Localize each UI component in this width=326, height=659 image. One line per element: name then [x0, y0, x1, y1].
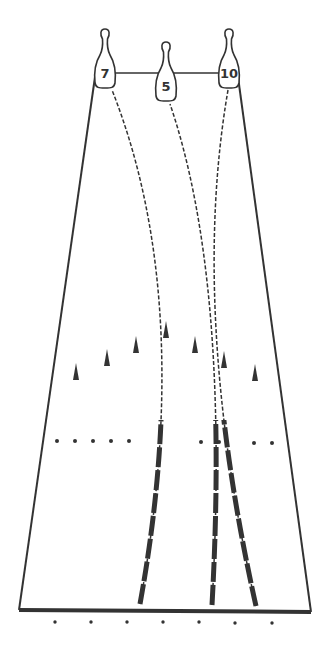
ball-path-heavy-5 — [170, 104, 216, 605]
pin-label: 7 — [100, 66, 109, 81]
arrow-marker — [221, 351, 227, 368]
range-dot — [270, 441, 274, 445]
approach-dot — [197, 620, 200, 623]
range-dot — [252, 441, 256, 445]
lane-left-edge — [19, 77, 95, 610]
range-dot — [91, 439, 95, 443]
arrow-marker — [192, 336, 198, 353]
lane-right-edge — [238, 77, 311, 612]
lane-outline — [19, 73, 311, 612]
approach-dot — [233, 621, 236, 624]
range-dot — [127, 439, 131, 443]
range-dot — [109, 439, 113, 443]
arrow-marker — [252, 364, 258, 381]
pin-7: 7 — [95, 29, 116, 88]
pin-label: 5 — [161, 79, 170, 94]
pin-label: 10 — [220, 66, 238, 81]
pin-10: 10 — [219, 29, 240, 88]
range-dot — [55, 439, 59, 443]
approach-dot — [270, 621, 273, 624]
pins: 7510 — [95, 29, 240, 101]
ball-path-pin-5 — [170, 104, 216, 605]
range-dot — [73, 439, 77, 443]
ball-paths — [112, 90, 256, 606]
range-dot — [199, 440, 203, 444]
approach-dot — [89, 620, 92, 623]
approach-dot — [161, 620, 164, 623]
arrow-marker — [133, 336, 139, 353]
arrow-marker — [73, 363, 79, 380]
arrow-marker — [163, 321, 169, 338]
range-dot — [217, 440, 221, 444]
approach-dot — [53, 620, 56, 623]
lane-arrows — [73, 321, 258, 381]
approach-dot — [125, 620, 128, 623]
arrow-marker — [104, 349, 110, 366]
foul-line — [19, 610, 311, 612]
bowling-lane-diagram: 7510 — [0, 0, 326, 659]
pin-5: 5 — [156, 42, 177, 101]
